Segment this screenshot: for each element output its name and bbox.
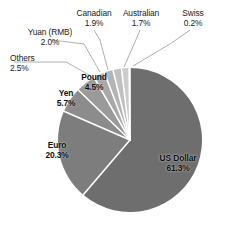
pie-label-us-dollar: US Dollar 61.3% <box>150 153 206 173</box>
pie-label-swiss: Swiss 0.2% <box>168 8 218 28</box>
pie-label-australian: Australian 1.7% <box>108 8 174 28</box>
pie-label-australian-name: Australian <box>108 8 174 18</box>
leader-line-swiss <box>133 30 190 66</box>
pie-label-yen-name: Yen <box>46 88 86 98</box>
pie-label-yen-value: 5.7% <box>46 98 86 108</box>
pie-label-swiss-value: 0.2% <box>168 18 218 28</box>
pie-label-euro: Euro 20.3% <box>34 140 80 160</box>
pie-label-yen: Yen 5.7% <box>46 88 86 108</box>
pie-label-yuan-name: Yuan (RMB) <box>12 27 88 37</box>
pie-label-yuan-value: 2.0% <box>12 37 88 47</box>
pie-label-euro-value: 20.3% <box>34 150 80 160</box>
pie-label-euro-name: Euro <box>34 140 80 150</box>
pie-label-australian-value: 1.7% <box>108 18 174 28</box>
pie-label-pound-name: Pound <box>70 72 118 82</box>
pie-chart: Canadian 1.9% Australian 1.7% Swiss 0.2%… <box>0 0 226 242</box>
leader-line-canadian <box>94 30 108 70</box>
pie-label-others-name: Others <box>10 53 70 63</box>
pie-label-yuan: Yuan (RMB) 2.0% <box>12 27 88 47</box>
pie-label-others-value: 2.5% <box>10 63 70 73</box>
leader-line-australian <box>124 30 140 67</box>
pie-label-us-dollar-value: 61.3% <box>150 163 206 173</box>
pie-label-others: Others 2.5% <box>10 53 70 73</box>
pie-label-us-dollar-name: US Dollar <box>150 153 206 163</box>
pie-label-swiss-name: Swiss <box>168 8 218 18</box>
